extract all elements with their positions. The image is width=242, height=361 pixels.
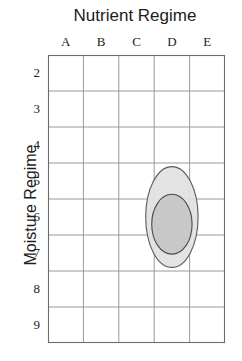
row-label-8: 8 [24, 271, 44, 307]
column-header-d: D [154, 33, 189, 51]
row-label-4: 4 [24, 127, 44, 163]
page-title: Nutrient Regime [40, 6, 230, 26]
row-label-7: 7 [24, 235, 44, 271]
edatopic-grid-figure: Nutrient Regime Moisture Regime A B C D … [0, 0, 242, 361]
column-header-row: A B C D E [48, 33, 225, 51]
row-label-6: 6 [24, 199, 44, 235]
column-header-a: A [48, 33, 83, 51]
grid-lines [48, 55, 225, 343]
row-label-3: 3 [24, 91, 44, 127]
row-label-2: 2 [24, 55, 44, 91]
column-header-c: C [119, 33, 154, 51]
plot-area [48, 55, 225, 343]
row-label-9: 9 [24, 307, 44, 343]
column-header-e: E [190, 33, 225, 51]
column-header-b: B [83, 33, 118, 51]
row-label-column: 2 3 4 5 6 7 8 9 [24, 55, 44, 343]
row-label-5: 5 [24, 163, 44, 199]
